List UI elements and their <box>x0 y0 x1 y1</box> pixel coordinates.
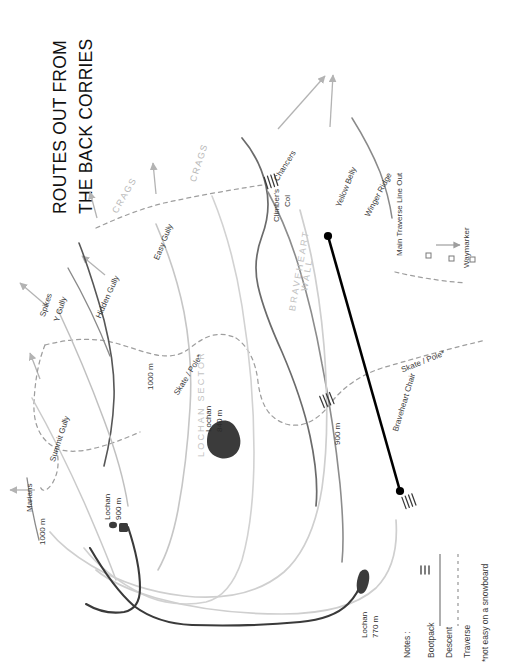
label-lochan-840-line2: 840 m <box>215 410 224 432</box>
lochan-900-small <box>109 522 117 529</box>
legend-bootpack-symbol <box>421 566 429 574</box>
label-lochan-770-line2: 770 m <box>371 616 380 638</box>
lochan-770 <box>357 570 370 594</box>
descent-lochan-outer <box>50 210 327 597</box>
traverse-lines <box>34 185 486 490</box>
label-climbers-col-line2: Col <box>283 195 292 207</box>
map-page: ROUTES OUT FROM THE BACK CORRIES <box>0 0 507 668</box>
traverse-waymarker-legend <box>395 272 466 283</box>
arrow-summit-gully <box>30 353 40 379</box>
legend-footnote: *not easy on a snowboard <box>480 564 490 662</box>
legend-item-bootpack-label: Bootpack <box>426 623 436 658</box>
traverse-lochan-west <box>34 345 140 451</box>
label-waymarker: Waymarker <box>462 227 471 268</box>
arrow-chancers <box>278 76 325 129</box>
braveheart-chair-line <box>324 232 404 495</box>
chair-top-station <box>324 232 332 240</box>
lochan-900 <box>119 523 128 532</box>
waymarker-square-1 <box>426 253 431 258</box>
runout-lochan-900 <box>86 527 140 613</box>
label-contour-1000-left: 1000 m <box>38 518 47 545</box>
arrow-hidden-gully <box>90 192 97 218</box>
arrow-yellow-belly <box>330 75 333 127</box>
legend-item-traverse-label: Traverse <box>462 625 472 658</box>
label-main-traverse-line-out: Main Traverse Line Out <box>395 173 404 256</box>
label-lochan-900-line1: Lochan <box>103 494 112 520</box>
waymarker-square-2 <box>449 256 454 261</box>
label-contour-900: 900 m <box>333 423 342 445</box>
label-climbers-col-line1: Climber's <box>272 189 281 222</box>
arrow-easy-gully <box>153 163 156 194</box>
bootpack-marks <box>264 174 416 509</box>
chair-cable <box>328 236 400 491</box>
chair-bottom-station <box>396 487 404 495</box>
label-marians: Marians <box>25 484 34 512</box>
descent-easy-gully <box>156 224 191 570</box>
runout-lochan-770 <box>90 548 362 625</box>
legend: Notes : Bootpack Descent Traverse *not e… <box>392 540 502 665</box>
legend-item-descent-label: Descent <box>444 627 454 658</box>
label-lochan-770-line1: Lochan <box>360 612 369 638</box>
label-lochan-840-line1: Lochan <box>204 406 213 432</box>
bootpack-chair-base <box>402 494 416 509</box>
label-lochan-900-line2: 900 m <box>114 498 123 520</box>
label-contour-1000-mid: 1000 m <box>146 363 155 390</box>
descent-summit-gully <box>32 398 116 580</box>
